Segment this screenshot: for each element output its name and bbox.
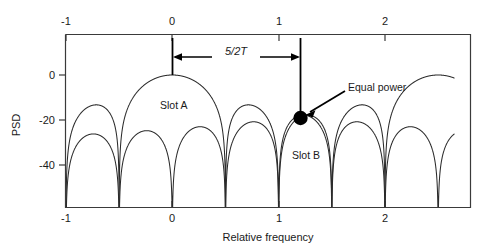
x-axis-title: Relative frequency — [222, 231, 314, 243]
y-axis-title: PSD — [10, 114, 22, 137]
bottom-axis-tick-labels: -1 0 1 2 — [61, 212, 388, 224]
top-axis-ticks — [66, 35, 385, 42]
y-axis-tick-labels: 0 -20 -40 — [39, 69, 55, 171]
top-tick-label-0: 0 — [169, 15, 175, 27]
equal-power-dot — [293, 111, 307, 125]
equal-power-label: Equal power — [348, 81, 407, 93]
span-label-5-2t: 5/2T — [225, 45, 248, 57]
top-axis-tick-labels: -1 0 1 2 — [61, 15, 388, 27]
curve-slot-a — [64, 75, 454, 228]
bottom-tick-label-2: 2 — [382, 212, 388, 224]
psd-chart-svg: -1 0 1 2 -1 0 1 2 0 -20 -40 — [0, 0, 481, 247]
y-tick-label-neg20: -20 — [39, 114, 55, 126]
top-tick-label-1: 1 — [276, 15, 282, 27]
top-tick-label-neg1: -1 — [61, 15, 71, 27]
top-tick-label-2: 2 — [382, 15, 388, 27]
curve-slot-b — [64, 75, 454, 228]
slot-b-label: Slot B — [292, 149, 320, 161]
slot-a-label: Slot A — [160, 99, 187, 111]
y-tick-label-0: 0 — [49, 69, 55, 81]
y-axis-ticks — [59, 75, 66, 165]
y-tick-label-neg40: -40 — [39, 159, 55, 171]
span-annotation-5-2t: 5/2T — [173, 38, 301, 117]
plot-frame — [66, 35, 471, 208]
bottom-tick-label-neg1: -1 — [61, 212, 71, 224]
psd-figure: -1 0 1 2 -1 0 1 2 0 -20 -40 — [0, 0, 481, 247]
span-right-arrowhead — [291, 53, 300, 61]
psd-curves — [64, 75, 454, 228]
equal-power-arrow-line — [310, 91, 345, 112]
span-left-arrowhead — [173, 53, 182, 61]
bottom-tick-label-1: 1 — [276, 212, 282, 224]
bottom-tick-label-0: 0 — [169, 212, 175, 224]
